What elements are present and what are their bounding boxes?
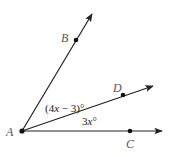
label-a: A bbox=[5, 125, 14, 139]
vertex-point-a bbox=[19, 128, 24, 133]
angle-diagram: A B D C (4x − 3)° 3x° bbox=[0, 0, 169, 157]
label-c: C bbox=[126, 137, 135, 151]
angle-dac-measure: 3x° bbox=[82, 115, 97, 127]
label-b: B bbox=[61, 31, 69, 45]
point-b bbox=[74, 38, 79, 43]
label-d: D bbox=[112, 81, 122, 95]
point-c bbox=[128, 129, 133, 134]
angle-bad-measure: (4x − 3)° bbox=[45, 102, 84, 115]
